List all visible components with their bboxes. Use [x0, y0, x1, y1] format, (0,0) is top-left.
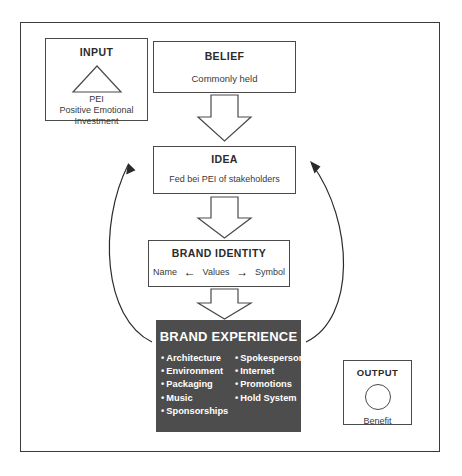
list-item: Spokesperson — [235, 352, 301, 365]
list-item: Sponsorships — [161, 405, 235, 418]
input-line2: Investment — [46, 116, 147, 127]
list-item: Hold System — [235, 392, 301, 405]
idea-subtitle: Fed bei PEI of stakeholders — [154, 174, 295, 184]
input-box: INPUT PEI Positive Emotional Investment — [45, 38, 148, 121]
identity-values-label: Values — [203, 267, 230, 277]
output-box: OUTPUT Benefit — [343, 360, 412, 425]
brand-identity-title: BRAND IDENTITY — [149, 247, 289, 259]
brand-experience-column-right: Spokesperson Internet Promotions Hold Sy… — [235, 352, 301, 418]
diagram-canvas: INPUT PEI Positive Emotional Investment … — [0, 0, 462, 476]
list-item: Environment — [161, 365, 235, 378]
brand-experience-box: BRAND EXPERIENCE Architecture Environmen… — [156, 320, 301, 432]
list-item: Music — [161, 392, 235, 405]
right-arrow-icon: → — [236, 268, 248, 277]
brand-experience-title: BRAND EXPERIENCE — [156, 329, 301, 344]
brand-experience-column-left: Architecture Environment Packaging Music… — [161, 352, 235, 418]
output-label: Benefit — [344, 416, 411, 426]
brand-experience-columns: Architecture Environment Packaging Music… — [156, 352, 301, 418]
idea-title: IDEA — [154, 153, 295, 165]
brand-identity-row: Name ← Values → Symbol — [149, 267, 289, 277]
circle-icon — [365, 384, 391, 410]
brand-identity-box: BRAND IDENTITY Name ← Values → Symbol — [148, 240, 290, 287]
identity-name-label: Name — [153, 267, 177, 277]
idea-box: IDEA Fed bei PEI of stakeholders — [153, 146, 296, 194]
input-line1: Positive Emotional — [46, 105, 147, 116]
belief-title: BELIEF — [154, 50, 295, 62]
output-title: OUTPUT — [344, 367, 411, 378]
input-title: INPUT — [46, 46, 147, 58]
list-item: Packaging — [161, 378, 235, 391]
belief-box: BELIEF Commonly held — [153, 41, 296, 93]
identity-symbol-label: Symbol — [255, 267, 285, 277]
left-arrow-icon: ← — [184, 268, 196, 277]
triangle-icon — [71, 64, 123, 94]
list-item: Architecture — [161, 352, 235, 365]
belief-subtitle: Commonly held — [154, 73, 295, 84]
list-item: Promotions — [235, 378, 301, 391]
input-abbrev: PEI — [46, 94, 147, 105]
list-item: Internet — [235, 365, 301, 378]
